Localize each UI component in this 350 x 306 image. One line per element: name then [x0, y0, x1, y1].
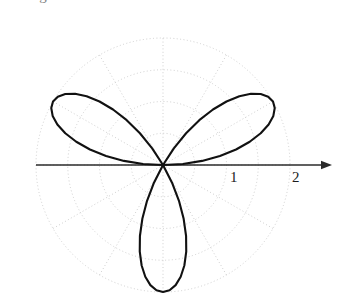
polar-plot-figure	[0, 0, 350, 306]
radial-tick-label-2: 2	[292, 170, 300, 185]
angular-grid-spoke	[163, 165, 273, 229]
polar-axis	[36, 161, 332, 169]
angular-grid-spoke	[53, 165, 163, 229]
axis-arrowhead	[321, 161, 332, 169]
radial-tick-label-1: 1	[230, 170, 238, 185]
